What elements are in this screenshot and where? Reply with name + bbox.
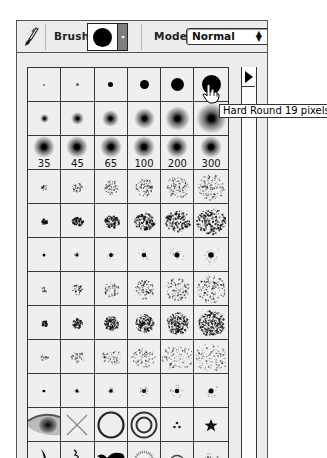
brush-swatch[interactable] — [61, 238, 94, 272]
brush-swatch[interactable] — [95, 272, 128, 306]
brush-swatch-star[interactable] — [194, 408, 227, 442]
brush-swatch[interactable] — [95, 170, 128, 204]
toolbar-divider — [45, 24, 46, 50]
brush-swatch[interactable] — [161, 306, 194, 340]
brush-swatch[interactable] — [161, 272, 194, 306]
brush-swatch[interactable] — [128, 340, 161, 374]
brush-size-label: 35 — [38, 159, 51, 169]
brush-swatch[interactable] — [61, 306, 94, 340]
brush-size-label: 45 — [71, 159, 84, 169]
brush-size-label: 65 — [104, 159, 117, 169]
brush-swatch[interactable] — [128, 68, 161, 102]
palette-scrollbar[interactable] — [241, 67, 257, 458]
brush-swatch[interactable] — [194, 170, 227, 204]
brush-swatch[interactable]: 200 — [161, 136, 194, 170]
brush-swatch-duck[interactable] — [95, 442, 128, 458]
brush-swatch-cross[interactable] — [61, 408, 94, 442]
mode-select[interactable]: Normal ▲▼ — [186, 28, 268, 45]
brush-swatch[interactable] — [61, 170, 94, 204]
options-toolbar: Brush: Mode: Normal ▲▼ — [17, 21, 268, 53]
brush-swatch[interactable] — [128, 238, 161, 272]
brush-swatch[interactable] — [95, 204, 128, 238]
brush-swatch[interactable] — [95, 340, 128, 374]
brush-preview[interactable] — [88, 24, 118, 50]
brush-swatch-eye[interactable] — [28, 408, 61, 442]
paintbrush-icon[interactable] — [23, 27, 41, 47]
brush-swatch-ring[interactable] — [95, 408, 128, 442]
up-down-arrows-icon: ▲▼ — [256, 31, 262, 41]
brush-swatch[interactable] — [28, 102, 61, 136]
brush-swatch-squiggle[interactable] — [61, 442, 94, 458]
brush-swatch[interactable] — [161, 68, 194, 102]
brush-swatch[interactable]: 35 — [28, 136, 61, 170]
brush-swatch[interactable] — [95, 374, 128, 408]
brush-swatch[interactable] — [161, 170, 194, 204]
palette-menu-button[interactable] — [242, 67, 255, 87]
brush-swatch[interactable] — [161, 204, 194, 238]
brush-size-label: 300 — [202, 159, 221, 169]
brush-swatch[interactable]: 45 — [61, 136, 94, 170]
brush-swatch[interactable] — [128, 102, 161, 136]
brush-swatch[interactable] — [194, 340, 227, 374]
brush-swatch[interactable] — [194, 238, 227, 272]
brush-swatch[interactable] — [61, 272, 94, 306]
brush-swatch[interactable] — [161, 102, 194, 136]
brush-swatch[interactable] — [161, 374, 194, 408]
brush-swatch[interactable] — [95, 68, 128, 102]
toolbar-divider — [141, 24, 142, 50]
brush-swatch-three-dots[interactable] — [161, 408, 194, 442]
brush-swatch[interactable] — [28, 272, 61, 306]
brush-swatch[interactable] — [128, 306, 161, 340]
brush-swatch[interactable] — [28, 204, 61, 238]
hard-round-brush-icon — [93, 28, 112, 47]
brush-swatch[interactable] — [194, 374, 227, 408]
brush-swatch-crescent[interactable] — [28, 442, 61, 458]
brush-tooltip: Hard Round 19 pixels — [219, 104, 327, 118]
brush-picker[interactable] — [87, 23, 128, 51]
brush-swatch[interactable]: 65 — [95, 136, 128, 170]
brush-swatch-splatter[interactable] — [194, 442, 227, 458]
brush-swatch[interactable] — [61, 204, 94, 238]
brush-swatch[interactable] — [28, 306, 61, 340]
chevron-down-icon — [121, 36, 125, 39]
brush-dropdown-button[interactable] — [118, 24, 127, 50]
brush-swatch[interactable] — [128, 170, 161, 204]
brush-swatch[interactable] — [161, 238, 194, 272]
brush-swatch[interactable] — [128, 204, 161, 238]
brush-swatch-double-ring[interactable] — [128, 408, 161, 442]
brush-swatch[interactable]: 100 — [128, 136, 161, 170]
brush-swatch[interactable] — [95, 102, 128, 136]
brush-swatch[interactable] — [28, 340, 61, 374]
brush-swatch[interactable] — [95, 306, 128, 340]
brush-size-label: 100 — [134, 159, 153, 169]
pointing-hand-cursor-icon — [202, 84, 220, 104]
triangle-right-icon — [245, 71, 253, 83]
brush-swatch[interactable] — [28, 374, 61, 408]
brush-swatch[interactable] — [61, 102, 94, 136]
brush-swatch-fuzzy-ring[interactable] — [128, 442, 161, 458]
brush-swatch[interactable] — [128, 374, 161, 408]
brush-grid-cells: 354565100200300 — [28, 68, 228, 458]
brush-swatch[interactable] — [61, 340, 94, 374]
brush-swatch[interactable] — [194, 306, 227, 340]
brush-swatch-thin-ring[interactable] — [161, 442, 194, 458]
brush-grid: 354565100200300 — [27, 67, 229, 458]
brush-swatch[interactable] — [61, 68, 94, 102]
brush-size-label: 200 — [168, 159, 187, 169]
brush-swatch[interactable] — [61, 374, 94, 408]
brush-swatch[interactable] — [161, 340, 194, 374]
brush-swatch[interactable] — [28, 238, 61, 272]
brush-swatch[interactable] — [194, 204, 227, 238]
brush-swatch[interactable] — [28, 68, 61, 102]
mode-value: Normal — [192, 30, 235, 42]
brush-swatch[interactable] — [28, 170, 61, 204]
brush-swatch[interactable] — [95, 238, 128, 272]
brush-swatch[interactable] — [194, 272, 227, 306]
brush-swatch[interactable]: 300 — [194, 136, 227, 170]
brush-options-panel: Brush: Mode: Normal ▲▼ 354565100200300 — [16, 20, 268, 458]
brush-swatch[interactable] — [128, 272, 161, 306]
